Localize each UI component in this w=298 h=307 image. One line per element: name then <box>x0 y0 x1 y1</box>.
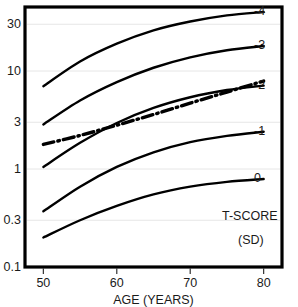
x-tick-label: 70 <box>170 277 210 290</box>
y-tick-label: 0.1 <box>4 261 21 274</box>
tscore-label-neg2: -2 <box>254 79 265 92</box>
data-curves <box>43 12 263 237</box>
y-tick-label: 0.3 <box>4 214 21 227</box>
x-tick-label: 80 <box>244 277 284 290</box>
tscore-label-neg1: -1 <box>254 125 265 138</box>
tscore-label-neg4: -4 <box>254 5 265 18</box>
legend-title: T-SCORE <box>222 210 278 223</box>
tscore-label-neg3: -3 <box>254 39 265 52</box>
y-tick-label: 30 <box>7 18 21 31</box>
y-tick-label: 1 <box>14 163 21 176</box>
x-tick-label: 50 <box>23 277 63 290</box>
x-tick-label: 60 <box>97 277 137 290</box>
gridlines <box>27 24 280 267</box>
tscore-label-0: 0 <box>254 172 261 185</box>
legend-subtitle: (SD) <box>238 234 264 247</box>
curve-tscore--2 <box>43 86 263 167</box>
y-tick-label: 10 <box>7 65 21 78</box>
curve-tscore--3 <box>43 46 263 124</box>
x-axis-title: AGE (YEARS) <box>25 294 282 307</box>
axis-ticks <box>43 269 263 275</box>
y-tick-label: 3 <box>14 116 21 129</box>
